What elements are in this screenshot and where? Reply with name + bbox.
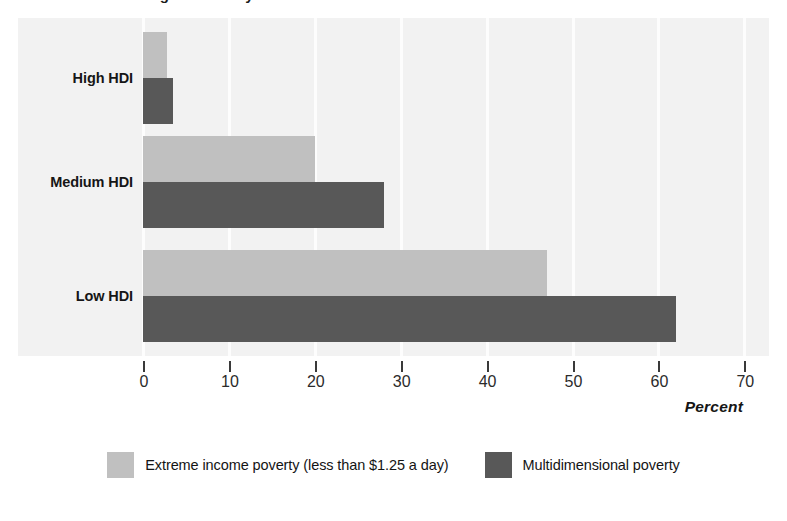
bar[interactable]: [143, 250, 547, 296]
cut-off-title: Figure Poverty in: [0, 0, 787, 9]
category-label-high-hdi: High HDI: [20, 70, 133, 86]
bar[interactable]: [143, 296, 676, 342]
x-axis-title: Percent: [685, 398, 743, 416]
cut-off-title-text: Figure Poverty in: [146, 0, 272, 3]
chart-legend: Extreme income poverty (less than $1.25 …: [0, 452, 787, 478]
category-label-medium-hdi: Medium HDI: [20, 174, 133, 190]
x-tick-mark-20: [315, 361, 317, 372]
x-tick-mark-40: [487, 361, 489, 372]
x-tick-mark-10: [229, 361, 231, 372]
x-tick-label-70: 70: [736, 373, 754, 391]
legend-item-extreme-income-poverty[interactable]: Extreme income poverty (less than $1.25 …: [107, 452, 448, 478]
legend-label-extreme-income-poverty: Extreme income poverty (less than $1.25 …: [145, 457, 448, 473]
legend-label-multidimensional-poverty: Multidimensional poverty: [523, 457, 680, 473]
legend-item-multidimensional-poverty[interactable]: Multidimensional poverty: [485, 452, 680, 478]
bar[interactable]: [143, 136, 315, 182]
bar[interactable]: [143, 182, 384, 228]
category-label-low-hdi: Low HDI: [20, 288, 133, 304]
x-tick-label-10: 10: [221, 373, 239, 391]
x-tick-label-20: 20: [307, 373, 325, 391]
x-tick-label-0: 0: [140, 373, 149, 391]
x-tick-label-40: 40: [479, 373, 497, 391]
x-tick-mark-60: [658, 361, 660, 372]
x-tick-label-30: 30: [393, 373, 411, 391]
bar[interactable]: [143, 32, 167, 78]
x-tick-label-50: 50: [565, 373, 583, 391]
x-axis: 010203040506070: [18, 356, 769, 396]
x-tick-mark-0: [143, 361, 145, 372]
legend-swatch-multidimensional-poverty: [485, 452, 512, 478]
x-tick-label-60: 60: [650, 373, 668, 391]
x-tick-mark-50: [573, 361, 575, 372]
x-tick-mark-70: [744, 361, 746, 372]
legend-swatch-extreme-income-poverty: [107, 452, 134, 478]
bar[interactable]: [143, 78, 173, 124]
x-tick-mark-30: [401, 361, 403, 372]
